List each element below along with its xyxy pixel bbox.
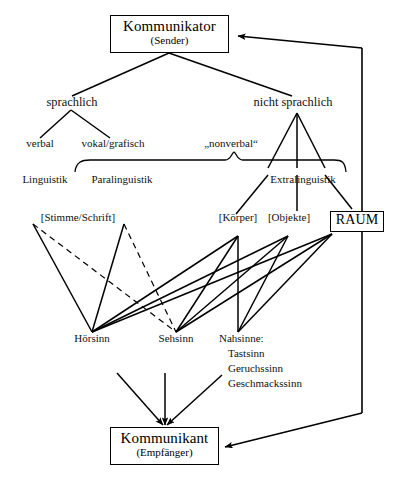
edge-sprachlich-to-verbal — [40, 110, 71, 138]
label-nahsinne-item-0: Tastsinn — [228, 348, 265, 360]
node-kommunikator: Kommunikator (Sender) — [110, 15, 229, 53]
label-objekte: [Objekte] — [268, 212, 310, 224]
label-sprachlich: sprachlich — [47, 96, 98, 109]
feedback-arrow-to-sender — [238, 36, 362, 48]
label-verbal: verbal — [26, 138, 53, 150]
label-nahsinne-title: Nahsinne: — [219, 333, 264, 345]
node-kommunikant: Kommunikant (Empfänger) — [110, 427, 219, 465]
edge-stimme-left-to-hoersinn — [33, 224, 92, 332]
label-hoersinn: Hörsinn — [74, 333, 109, 345]
label-nonverbal: „nonverbal“ — [204, 138, 258, 150]
label-linguistik: Linguistik — [22, 174, 67, 186]
kommunikator-subtitle: (Sender) — [111, 35, 228, 47]
label-nahsinne-item-1: Geruchssinn — [228, 363, 283, 375]
edge-stimme-left-to-sehsinn-dashed — [33, 224, 176, 332]
kommunikant-title: Kommunikant — [111, 431, 218, 447]
edge-koerper-to-hoersinn — [92, 236, 238, 332]
raum-label: RAUM — [331, 213, 383, 228]
kommunikator-title: Kommunikator — [111, 19, 228, 35]
edge-nahsinne-to-receiver — [167, 375, 222, 425]
label-paralinguistik: Paralinguistik — [91, 174, 152, 186]
edge-stimme-right-to-hoersinn — [92, 224, 124, 332]
label-vokal-grafisch: vokal/grafisch — [82, 138, 145, 150]
label-sehsinn: Sehsinn — [159, 333, 194, 345]
label-nicht-sprachlich: nicht sprachlich — [254, 96, 333, 109]
node-raum: RAUM — [330, 211, 384, 232]
label-nahsinne-item-2: Geschmackssinn — [228, 378, 302, 390]
brace-disciplines — [75, 152, 346, 172]
diagram-canvas: Kommunikator (Sender) Kommunikant (Empfä… — [0, 0, 406, 480]
label-stimme-schrift: [Stimme/Schrift] — [41, 212, 116, 224]
edge-raum-to-hoersinn — [92, 234, 332, 332]
kommunikant-subtitle: (Empfänger) — [111, 447, 218, 459]
edge-koerper-to-sehsinn — [176, 236, 238, 332]
label-extralinguistik: Extralinguistik — [270, 174, 335, 186]
label-koerper: [Körper] — [219, 212, 257, 224]
feedback-arrow-to-receiver — [225, 413, 362, 447]
edge-objekte-to-sehsinn — [176, 236, 288, 332]
edge-objekte-to-hoersinn — [92, 236, 288, 332]
edge-hoersinn-to-receiver — [117, 373, 163, 425]
edge-sprachlich-to-vokal — [71, 110, 110, 138]
edge-sender-to-nicht-sprachlich — [169, 53, 292, 96]
edge-sender-to-sprachlich — [72, 53, 169, 96]
edge-objekte-to-nahsinne — [238, 236, 288, 332]
edge-raum-to-nahsinne — [238, 234, 332, 332]
edge-raum-to-sehsinn — [176, 234, 332, 332]
edge-extraling-to-koerper — [236, 175, 268, 214]
diagram-connector-layer — [0, 0, 406, 480]
